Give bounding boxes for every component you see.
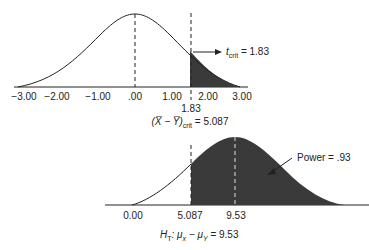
t-crit-annotation: tcrit = 1.83	[226, 46, 269, 59]
crit-tick-label: 1.83	[181, 103, 200, 114]
power-label: Power = .93	[297, 152, 351, 163]
tick-label: .00	[128, 91, 142, 102]
tick-label: 5.087	[177, 210, 202, 221]
alt-hypothesis-caption: HT: μx − μY = 9.53	[160, 229, 238, 242]
power-region	[191, 137, 345, 205]
tick-label: 9.53	[226, 210, 245, 221]
arrow-head-icon	[215, 49, 222, 55]
tick-label: −2.00	[44, 91, 69, 102]
tick-label: 2.00	[198, 91, 217, 102]
tick-label: −1.00	[85, 91, 110, 102]
tick-label: 3.00	[232, 91, 251, 102]
alt-distribution	[105, 137, 369, 205]
null-distribution	[14, 13, 248, 100]
tick-label: 1.00	[162, 91, 181, 102]
crit-diff-caption: (X̅ − Y̅)crit = 5.087	[152, 116, 229, 129]
alt-curve-left	[132, 164, 191, 205]
tick-label: −3.00	[11, 91, 36, 102]
tick-label: 0.00	[123, 210, 142, 221]
